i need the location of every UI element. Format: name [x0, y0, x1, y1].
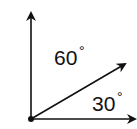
lower-angle-label: 30 — [92, 92, 115, 115]
lower-angle-degree-symbol: ° — [117, 89, 123, 105]
upper-angle-label: 60 — [54, 46, 77, 69]
origin-point — [28, 116, 34, 122]
upper-angle-degree-symbol: ° — [79, 43, 85, 59]
angle-diagram: 60 ° 30 ° — [0, 0, 137, 129]
